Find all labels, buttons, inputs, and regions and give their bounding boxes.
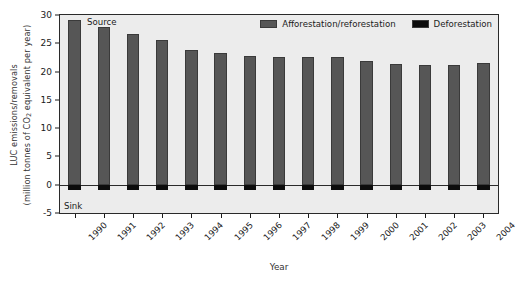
x-tick-label: 1994 <box>203 220 226 243</box>
x-axis-title: Year <box>59 262 499 272</box>
x-tick-label: 1995 <box>232 220 255 243</box>
x-tick-label: 1997 <box>290 220 313 243</box>
bar-group <box>127 15 139 213</box>
bar-afforestation <box>127 34 139 184</box>
bar-group <box>273 15 285 213</box>
bar-group <box>214 15 226 213</box>
bar-afforestation <box>477 63 489 185</box>
y-axis-title-line-2-pre: (million tonnes of CO <box>22 117 32 205</box>
bar-deforestation <box>331 185 343 191</box>
bar-afforestation <box>68 20 80 185</box>
x-tick-mark <box>75 214 76 218</box>
bar-deforestation <box>244 185 256 191</box>
y-tick-label: 25 <box>41 38 52 48</box>
x-tick-label: 1991 <box>115 220 138 243</box>
bar-group <box>302 15 314 213</box>
bar-afforestation <box>331 57 343 185</box>
bar-afforestation <box>185 50 197 185</box>
bar-deforestation <box>127 185 139 191</box>
bar-deforestation <box>302 185 314 191</box>
bar-afforestation <box>390 64 402 184</box>
x-tick-label: 2004 <box>495 220 517 243</box>
x-tick-mark <box>367 214 368 218</box>
x-tick-mark <box>250 214 251 218</box>
bar-afforestation <box>419 65 431 184</box>
x-tick-label: 2001 <box>407 220 430 243</box>
x-tick-mark <box>191 214 192 218</box>
bar-group <box>360 15 372 213</box>
bar-deforestation <box>477 185 489 191</box>
bar-deforestation <box>360 185 372 191</box>
bar-afforestation <box>273 57 285 185</box>
bar-group <box>419 15 431 213</box>
bar-deforestation <box>273 185 285 191</box>
bar-afforestation <box>244 56 256 185</box>
y-axis-title: LUC emissions/removals (million tonnes o… <box>0 0 34 230</box>
bar-deforestation <box>214 185 226 191</box>
y-tick-label: 30 <box>41 10 52 20</box>
x-tick-mark <box>425 214 426 218</box>
plot-inner: Source Sink Afforestation/reforestationD… <box>60 15 498 213</box>
y-tick-label: 20 <box>41 67 52 77</box>
x-axis-tick-labels: 1990199119921993199419951996199719981999… <box>59 220 499 260</box>
bar-group <box>98 15 110 213</box>
co2-subscript: 2 <box>25 113 33 117</box>
x-tick-label: 2003 <box>466 220 489 243</box>
bar-deforestation <box>98 185 110 191</box>
x-tick-label: 1996 <box>261 220 284 243</box>
bar-deforestation <box>419 185 431 191</box>
bar-group <box>244 15 256 213</box>
x-tick-label: 2000 <box>378 220 401 243</box>
bar-afforestation <box>302 57 314 185</box>
bar-deforestation <box>156 185 168 191</box>
y-axis-ticks: 302520151050-5 <box>33 14 55 214</box>
bar-deforestation <box>390 185 402 191</box>
plot-area: Source Sink Afforestation/reforestationD… <box>59 14 499 214</box>
x-tick-label: 1992 <box>144 220 167 243</box>
bar-group <box>390 15 402 213</box>
bar-group <box>185 15 197 213</box>
bar-group <box>156 15 168 213</box>
bar-afforestation <box>98 27 110 185</box>
bar-deforestation <box>185 185 197 191</box>
y-axis-title-line-2-post: equivalent per year) <box>22 25 32 113</box>
y-axis-title-line-2: (million tonnes of CO2 equivalent per ye… <box>22 25 33 206</box>
bar-group <box>477 15 489 213</box>
x-tick-mark <box>454 214 455 218</box>
bar-afforestation <box>214 53 226 184</box>
x-tick-mark <box>308 214 309 218</box>
bar-group <box>448 15 460 213</box>
x-tick-mark <box>133 214 134 218</box>
y-tick-label: 5 <box>46 151 52 161</box>
x-tick-label: 2002 <box>436 220 459 243</box>
bar-deforestation <box>68 185 80 191</box>
bar-afforestation <box>448 65 460 185</box>
y-tick-label: 10 <box>41 123 52 133</box>
y-tick-label: 15 <box>41 95 52 105</box>
x-tick-label: 1990 <box>86 220 109 243</box>
x-tick-mark <box>396 214 397 218</box>
x-tick-mark <box>337 214 338 218</box>
x-tick-label: 1993 <box>174 220 197 243</box>
x-tick-mark <box>104 214 105 218</box>
bar-group <box>331 15 343 213</box>
y-tick-label: 0 <box>46 180 52 190</box>
x-tick-label: 1999 <box>349 220 372 243</box>
y-axis-title-line-1: LUC emissions/removals <box>9 64 19 166</box>
x-tick-mark <box>279 214 280 218</box>
bar-afforestation <box>156 40 168 184</box>
bar-afforestation <box>360 61 372 184</box>
x-tick-mark <box>162 214 163 218</box>
y-tick-label: -5 <box>43 208 52 218</box>
x-tick-mark <box>221 214 222 218</box>
x-tick-label: 1998 <box>320 220 343 243</box>
bar-deforestation <box>448 185 460 191</box>
bar-group <box>68 15 80 213</box>
x-tick-mark <box>483 214 484 218</box>
